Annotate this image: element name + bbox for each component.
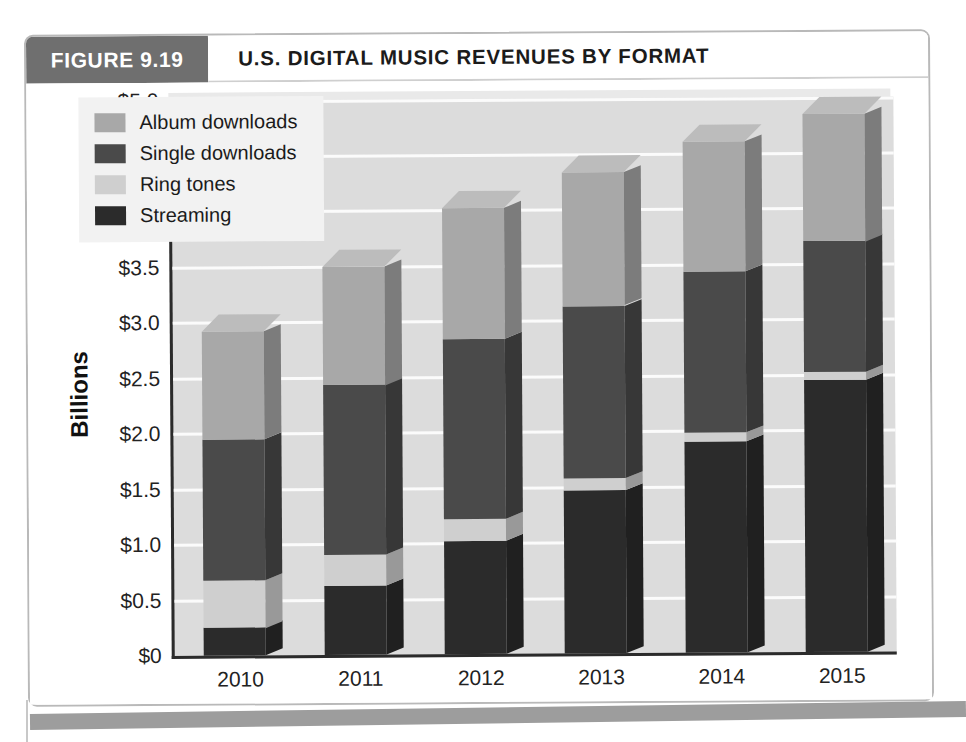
bar-segment[interactable] bbox=[204, 628, 266, 656]
bar-segment-front-face bbox=[564, 490, 627, 654]
chart-legend: Album downloadsSingle downloadsRing tone… bbox=[78, 96, 324, 242]
bar-segment[interactable] bbox=[804, 380, 868, 652]
bar-segment-front-face bbox=[322, 266, 385, 385]
bar-segment-front-face bbox=[804, 380, 868, 652]
bar-segment[interactable] bbox=[203, 439, 266, 580]
bar-segment-front-face bbox=[562, 173, 625, 307]
bar-column-2013[interactable] bbox=[562, 98, 627, 653]
bar-segment-side-face bbox=[385, 378, 403, 555]
bar-segment[interactable] bbox=[444, 518, 506, 541]
bar-segment[interactable] bbox=[203, 580, 265, 628]
legend-item-label: Album downloads bbox=[139, 110, 297, 134]
figure-card: FIGURE 9.19 U.S. DIGITAL MUSIC REVENUES … bbox=[24, 29, 934, 707]
legend-item-album-downloads[interactable]: Album downloads bbox=[94, 106, 297, 138]
page-edge bbox=[26, 700, 28, 742]
legend-swatch bbox=[95, 175, 126, 194]
bar-segment[interactable] bbox=[684, 433, 746, 442]
bar-segment-front-face bbox=[202, 331, 265, 439]
x-axis-tick-label-2010: 2010 bbox=[217, 667, 264, 691]
y-axis-tick-label: $3.0 bbox=[119, 311, 160, 335]
bar-segment-front-face bbox=[203, 439, 266, 580]
bar-segment[interactable] bbox=[804, 372, 866, 380]
bar-segment-front-face bbox=[204, 628, 266, 656]
legend-item-ring-tones[interactable]: Ring tones bbox=[95, 168, 298, 200]
bar-segment-front-face bbox=[804, 372, 866, 380]
bar-segment-side-face bbox=[505, 332, 523, 519]
bar-segment[interactable] bbox=[442, 208, 505, 339]
chart-area: Billions $5.0$4.5$4.0$3.5$3.0$2.5$2.0$1.… bbox=[26, 78, 932, 704]
x-axis-tick-labels: 201020112012201320142015 bbox=[172, 663, 894, 707]
bar-segment-front-face bbox=[682, 142, 745, 272]
bar-segment[interactable] bbox=[324, 555, 386, 586]
x-axis-tick-label-2013: 2013 bbox=[578, 665, 625, 689]
y-axis-tick-label: $0 bbox=[138, 644, 162, 668]
bar-segment-side-face bbox=[265, 573, 282, 628]
legend-swatch bbox=[95, 144, 126, 163]
bar-segment[interactable] bbox=[683, 272, 746, 433]
bar-segment[interactable] bbox=[323, 385, 386, 555]
bar-segment-front-face bbox=[683, 272, 746, 433]
bar-segment[interactable] bbox=[682, 142, 745, 272]
figure-title-container: U.S. DIGITAL MUSIC REVENUES BY FORMAT bbox=[208, 31, 928, 82]
figure-number-tag: FIGURE 9.19 bbox=[26, 36, 208, 84]
y-axis-tick-label: $1.5 bbox=[120, 477, 161, 501]
legend-swatch bbox=[94, 113, 125, 132]
bar-segment-side-face bbox=[386, 579, 403, 655]
bar-segment[interactable] bbox=[443, 339, 506, 519]
bar-column-2012[interactable] bbox=[441, 99, 506, 654]
bar-segment-front-face bbox=[684, 433, 746, 442]
bar-segment-side-face bbox=[626, 483, 644, 653]
bar-segment-side-face bbox=[625, 299, 643, 478]
bar-segment-front-face bbox=[444, 541, 507, 655]
x-axis-tick-label-2014: 2014 bbox=[698, 664, 745, 688]
bar-segment-front-face bbox=[564, 478, 626, 491]
bar-segment-front-face bbox=[563, 306, 626, 478]
bar-segment-front-face bbox=[684, 441, 747, 652]
x-axis-tick-label-2011: 2011 bbox=[338, 667, 383, 691]
bar-segment[interactable] bbox=[202, 331, 265, 439]
legend-swatch bbox=[95, 206, 126, 225]
figure-title: U.S. DIGITAL MUSIC REVENUES BY FORMAT bbox=[238, 43, 709, 70]
bar-segment-side-face bbox=[265, 432, 283, 580]
y-axis-tick-label: $0.5 bbox=[120, 588, 161, 612]
bar-segment-front-face bbox=[442, 208, 505, 339]
bar-segment-side-face bbox=[264, 324, 282, 439]
bar-segment[interactable] bbox=[444, 541, 507, 655]
bar-segment-side-face bbox=[746, 435, 764, 653]
bar-segment-side-face bbox=[744, 135, 762, 272]
bar-segment[interactable] bbox=[563, 306, 626, 478]
y-axis-tick-label: $2.0 bbox=[119, 422, 160, 446]
bar-column-2014[interactable] bbox=[682, 97, 747, 652]
bar-segment-front-face bbox=[443, 339, 506, 519]
bar-segment-side-face bbox=[506, 534, 524, 654]
bar-segment-side-face bbox=[864, 106, 882, 241]
bar-segment[interactable] bbox=[684, 441, 747, 652]
bar-segment-side-face bbox=[745, 265, 763, 433]
bar-segment[interactable] bbox=[564, 478, 626, 491]
y-axis-tick-label: $3.5 bbox=[118, 255, 159, 279]
y-axis-tick-label: $1.0 bbox=[120, 533, 161, 557]
legend-item-label: Ring tones bbox=[140, 172, 236, 196]
bar-segment[interactable] bbox=[324, 586, 386, 655]
bar-column-2015[interactable] bbox=[802, 97, 867, 652]
bar-segment-front-face bbox=[324, 586, 386, 655]
bar-segment[interactable] bbox=[803, 241, 866, 372]
legend-item-label: Streaming bbox=[140, 204, 231, 228]
x-axis-tick-label-2015: 2015 bbox=[819, 664, 866, 688]
bar-segment-side-face bbox=[865, 234, 883, 372]
bar-segment-side-face bbox=[504, 201, 522, 339]
bar-segment-side-face bbox=[624, 166, 642, 306]
bar-segment[interactable] bbox=[564, 490, 627, 654]
legend-item-streaming[interactable]: Streaming bbox=[95, 199, 298, 231]
bar-column-2011[interactable] bbox=[321, 100, 386, 655]
bar-segment[interactable] bbox=[322, 266, 385, 385]
bar-segment[interactable] bbox=[802, 113, 865, 241]
x-axis-tick-label-2012: 2012 bbox=[458, 666, 505, 690]
bar-segment-front-face bbox=[324, 555, 386, 586]
legend-item-label: Single downloads bbox=[140, 141, 297, 165]
bar-segment-front-face bbox=[203, 580, 265, 628]
bar-segment-side-face bbox=[384, 259, 402, 385]
legend-item-single-downloads[interactable]: Single downloads bbox=[95, 137, 298, 169]
bar-segment-front-face bbox=[444, 518, 506, 541]
bar-segment[interactable] bbox=[562, 173, 625, 307]
